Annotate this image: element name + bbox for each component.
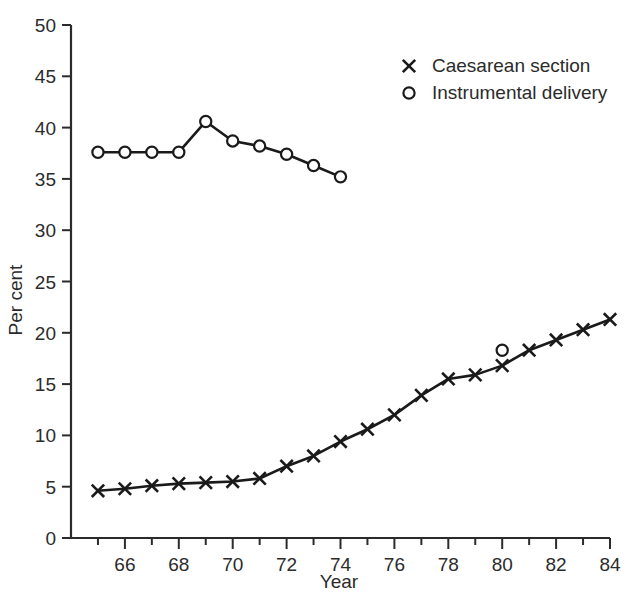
x-axis-title: Year xyxy=(320,571,359,592)
data-point-marker-o xyxy=(335,171,346,182)
x-axis-tick-label: 76 xyxy=(384,554,405,575)
chart-figure: 05101520253035404550 6668707274767880828… xyxy=(0,0,637,602)
y-axis-title: Per cent xyxy=(5,264,26,335)
x-axis-tick-label: 84 xyxy=(599,554,621,575)
series-o xyxy=(497,345,508,356)
y-axis-tick-label: 40 xyxy=(35,118,56,139)
data-point-marker-o xyxy=(281,149,292,160)
y-axis-tick-label: 45 xyxy=(35,66,56,87)
data-point-marker-o xyxy=(146,147,157,158)
x-axis-tick-label: 68 xyxy=(168,554,189,575)
y-axis-tick-label: 15 xyxy=(35,374,56,395)
legend-item: Instrumental delivery xyxy=(403,82,607,103)
data-point-marker-o xyxy=(403,87,414,98)
x-axis-tick-label: 66 xyxy=(114,554,135,575)
x-axis-tick-label: 78 xyxy=(438,554,459,575)
data-point-marker-o xyxy=(308,160,319,171)
legend-item-label: Instrumental delivery xyxy=(432,82,608,103)
y-axis-tick-label: 20 xyxy=(35,323,56,344)
legend-item-label: Caesarean section xyxy=(432,55,590,76)
y-axis-tick-label: 10 xyxy=(35,425,56,446)
y-axis-tick-label: 30 xyxy=(35,220,56,241)
x-axis-tick-label: 70 xyxy=(222,554,243,575)
data-point-marker-o xyxy=(227,135,238,146)
line-chart: 05101520253035404550 6668707274767880828… xyxy=(0,0,637,602)
data-point-marker-o xyxy=(92,147,103,158)
y-axis-tick-label: 5 xyxy=(45,477,56,498)
data-point-marker-o xyxy=(497,345,508,356)
y-axis-tick-label: 0 xyxy=(45,528,56,549)
x-axis-tick-label: 80 xyxy=(492,554,513,575)
data-point-marker-o xyxy=(254,140,265,151)
data-point-marker-o xyxy=(200,116,211,127)
y-axis-tick-label: 35 xyxy=(35,169,56,190)
x-axis-tick-label: 72 xyxy=(276,554,297,575)
data-point-marker-o xyxy=(173,147,184,158)
y-axis-tick-label: 50 xyxy=(35,15,56,36)
y-axis-tick-label: 25 xyxy=(35,272,56,293)
x-axis-tick-label: 82 xyxy=(546,554,567,575)
data-point-marker-o xyxy=(119,147,130,158)
